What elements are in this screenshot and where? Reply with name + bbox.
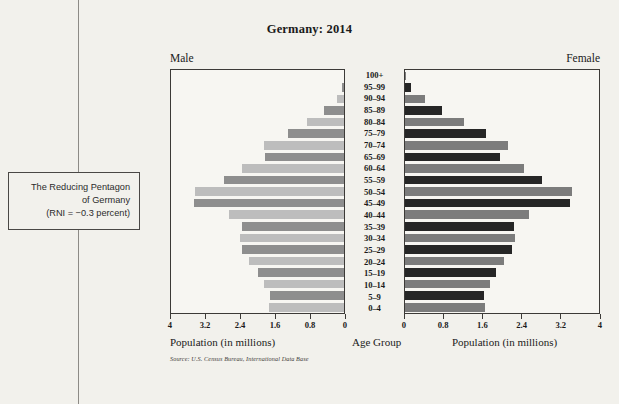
male-bar-row <box>171 70 344 82</box>
male-bar <box>342 83 344 92</box>
male-bar <box>324 106 344 115</box>
female-bar <box>405 268 496 277</box>
age-group-label: 90–94 <box>345 92 404 104</box>
age-group-label: 100+ <box>345 69 404 81</box>
male-bar <box>264 280 344 289</box>
axis-tick-label: 1.6 <box>270 320 281 330</box>
axis-tick <box>600 314 601 319</box>
female-bar-row <box>405 93 599 105</box>
male-bar-row <box>171 116 344 128</box>
axis-tick-label: 4 <box>168 320 172 330</box>
male-bar-row <box>171 163 344 175</box>
male-bar <box>224 176 344 185</box>
female-bar-row <box>405 70 599 82</box>
male-bar <box>194 199 344 208</box>
left-axis-caption: Population (in millions) <box>170 336 275 348</box>
age-group-label: 35–39 <box>345 221 404 233</box>
male-bar-row <box>171 278 344 290</box>
female-bar-row <box>405 139 599 151</box>
male-x-axis: 43.22.41.60.80 <box>170 314 345 336</box>
male-bar-row <box>171 255 344 267</box>
male-bar <box>337 95 344 104</box>
age-group-label: 10–14 <box>345 279 404 291</box>
female-bar <box>405 245 512 254</box>
male-bar-rows <box>171 70 344 313</box>
female-bar-row <box>405 278 599 290</box>
axis-tick-label: 4 <box>598 320 602 330</box>
female-bar <box>405 164 524 173</box>
axis-tick-label: 3.2 <box>200 320 211 330</box>
female-bar-row <box>405 116 599 128</box>
female-bar <box>405 176 542 185</box>
age-group-label: 55–59 <box>345 174 404 186</box>
female-bar-row <box>405 209 599 221</box>
axis-tick-label: 0.8 <box>305 320 316 330</box>
axis-tick-label: 0 <box>343 320 347 330</box>
male-bar <box>195 187 344 196</box>
axis-tick-label: 0 <box>402 320 406 330</box>
female-bar-row <box>405 128 599 140</box>
male-bar-row <box>171 186 344 198</box>
female-bar <box>405 118 464 127</box>
age-group-label: 0–4 <box>345 302 404 314</box>
male-bar <box>242 222 344 231</box>
axis-tick-label: 2.4 <box>235 320 246 330</box>
female-bar-row <box>405 197 599 209</box>
female-bar <box>405 141 508 150</box>
axis-tick <box>310 314 311 319</box>
female-bar <box>405 210 529 219</box>
female-bar-row <box>405 105 599 117</box>
age-group-label: 20–24 <box>345 256 404 268</box>
female-bar <box>405 106 442 115</box>
female-bar-row <box>405 82 599 94</box>
male-plot-panel <box>170 69 345 314</box>
center-axis-caption: Age Group <box>352 336 401 348</box>
male-bar-row <box>171 128 344 140</box>
age-group-label: 15–19 <box>345 267 404 279</box>
age-group-label: 95–99 <box>345 81 404 93</box>
female-bar-row <box>405 186 599 198</box>
chart-title: Germany: 2014 <box>0 22 619 37</box>
female-bar-row <box>405 232 599 244</box>
population-pyramid-figure: Germany: 2014 Male Female 100+95–9990–94… <box>0 0 619 404</box>
age-group-label: 30–34 <box>345 232 404 244</box>
age-group-label: 60–64 <box>345 162 404 174</box>
age-group-label: 45–49 <box>345 197 404 209</box>
male-bar <box>269 303 344 312</box>
axis-tick-label: 2.4 <box>516 320 527 330</box>
female-plot-panel <box>404 69 600 314</box>
male-bar-row <box>171 232 344 244</box>
male-bar <box>258 268 344 277</box>
female-bar-row <box>405 255 599 267</box>
axis-tick <box>560 314 561 319</box>
male-bar <box>288 129 344 138</box>
male-bar <box>249 257 344 266</box>
female-bar-row <box>405 221 599 233</box>
female-header-label: Female <box>566 52 600 64</box>
male-bar-row <box>171 197 344 209</box>
age-group-label: 70–74 <box>345 139 404 151</box>
male-bar-row <box>171 209 344 221</box>
age-group-label: 80–84 <box>345 116 404 128</box>
axis-tick <box>240 314 241 319</box>
axis-tick <box>404 314 405 319</box>
axis-tick <box>345 314 346 319</box>
male-bar <box>265 153 344 162</box>
axis-tick <box>521 314 522 319</box>
age-group-label: 50–54 <box>345 186 404 198</box>
male-bar-row <box>171 82 344 94</box>
axis-tick-label: 0.8 <box>438 320 449 330</box>
age-group-label: 85–89 <box>345 104 404 116</box>
female-bar <box>405 95 425 104</box>
axis-tick <box>482 314 483 319</box>
female-bar <box>405 199 570 208</box>
male-bar-row <box>171 290 344 302</box>
female-bar-row <box>405 267 599 279</box>
male-bar <box>242 245 344 254</box>
age-group-label: 5–9 <box>345 291 404 303</box>
age-group-label: 40–44 <box>345 209 404 221</box>
female-bar <box>405 129 486 138</box>
axis-tick <box>275 314 276 319</box>
male-bar-row <box>171 174 344 186</box>
female-bar-row <box>405 302 599 314</box>
